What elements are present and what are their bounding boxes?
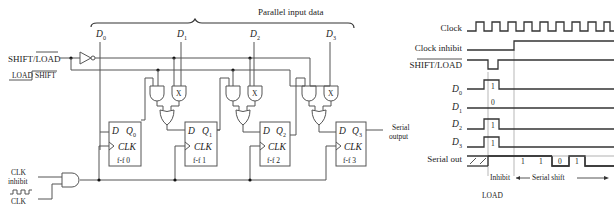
data-input-d3: D 3 bbox=[325, 29, 336, 41]
data-input-d2: D 2 bbox=[249, 29, 260, 41]
svg-text:0: 0 bbox=[103, 35, 106, 41]
timing-label-d1: D 1 bbox=[451, 102, 462, 114]
svg-text:0: 0 bbox=[133, 132, 136, 138]
svg-text:2: 2 bbox=[459, 125, 462, 131]
svg-text:f-f 2: f-f 2 bbox=[267, 156, 280, 165]
svg-text:f-f 1: f-f 1 bbox=[193, 156, 206, 165]
timing-label-d2: D 2 bbox=[451, 119, 462, 131]
shift-load-waveform bbox=[467, 60, 614, 69]
svg-text:CLK: CLK bbox=[11, 168, 27, 177]
gating-stage-1: X bbox=[141, 58, 186, 130]
svg-text:D: D bbox=[338, 126, 346, 136]
svg-text:f-f 3: f-f 3 bbox=[343, 156, 356, 165]
svg-text:SHIFT: SHIFT bbox=[35, 71, 56, 80]
svg-text:D: D bbox=[111, 126, 119, 136]
d3-waveform bbox=[467, 137, 614, 147]
timing-label-d3: D 3 bbox=[451, 137, 462, 149]
svg-text:Serial: Serial bbox=[392, 123, 410, 132]
clock-waveform bbox=[467, 22, 614, 31]
svg-text:1: 1 bbox=[184, 35, 187, 41]
serial-output-label: Serial output bbox=[389, 123, 410, 141]
svg-text:2: 2 bbox=[257, 35, 260, 41]
svg-text:1: 1 bbox=[491, 121, 495, 130]
svg-text:1: 1 bbox=[521, 157, 525, 166]
timing-label-serial-out: Serial out bbox=[427, 154, 462, 164]
svg-text:f-f 0: f-f 0 bbox=[117, 156, 130, 165]
svg-text:CLK: CLK bbox=[344, 142, 363, 152]
parallel-input-brace bbox=[91, 19, 354, 28]
timing-label-shift-load: SHIFT/LOAD bbox=[409, 60, 462, 70]
svg-text:2: 2 bbox=[283, 132, 286, 138]
shift-register-figure: Parallel input data D 0 D 1 D 2 D 3 SHIF… bbox=[0, 0, 615, 208]
svg-text:CLK: CLK bbox=[194, 142, 213, 152]
data-input-d0: D 0 bbox=[95, 29, 106, 41]
parallel-input-title: Parallel input data bbox=[258, 7, 323, 17]
timing-label-clock: Clock bbox=[441, 23, 463, 33]
svg-text:Serial shift: Serial shift bbox=[532, 173, 566, 182]
svg-text:3: 3 bbox=[333, 35, 336, 41]
clk-inhibit-label: CLK inhibit bbox=[8, 168, 29, 186]
svg-text:inhibit: inhibit bbox=[8, 177, 29, 186]
svg-text:output: output bbox=[389, 132, 409, 141]
shift-load-label: SHIFT/LOAD bbox=[8, 54, 61, 64]
inhibit-label: Inhibit bbox=[490, 173, 511, 182]
svg-text:Q: Q bbox=[202, 126, 209, 136]
svg-text:D: D bbox=[451, 137, 459, 147]
svg-text:0: 0 bbox=[558, 157, 562, 166]
svg-text:D: D bbox=[325, 29, 333, 39]
svg-text:1: 1 bbox=[491, 139, 495, 148]
flip-flop-1: D Q 1 CLK f-f 1 bbox=[175, 122, 220, 180]
svg-text:X: X bbox=[252, 89, 258, 98]
clk-label: CLK bbox=[11, 197, 27, 206]
serial-shift-annotation: Serial shift bbox=[516, 173, 609, 182]
svg-text:3: 3 bbox=[459, 143, 462, 149]
clock-inhibit-waveform bbox=[467, 41, 614, 50]
svg-text:D: D bbox=[451, 119, 459, 129]
svg-text:Q: Q bbox=[126, 126, 133, 136]
d0-waveform bbox=[467, 80, 614, 89]
load-label: LOAD bbox=[482, 191, 503, 200]
svg-text:1: 1 bbox=[209, 132, 212, 138]
svg-text:D: D bbox=[451, 102, 459, 112]
timing-label-clock-inhibit: Clock inhibit bbox=[415, 43, 463, 53]
clock-waveform-icon bbox=[10, 190, 32, 194]
timing-label-d0: D 0 bbox=[451, 84, 462, 96]
flip-flop-2: D Q 2 CLK f-f 2 bbox=[250, 122, 290, 180]
flip-flop-0: D Q 0 CLK f-f 0 bbox=[99, 122, 141, 180]
data-input-d1: D 1 bbox=[176, 29, 187, 41]
svg-text:Q: Q bbox=[276, 126, 283, 136]
svg-text:D: D bbox=[95, 29, 103, 39]
svg-text:1: 1 bbox=[539, 157, 543, 166]
svg-text:1: 1 bbox=[575, 157, 579, 166]
svg-text:D: D bbox=[176, 29, 184, 39]
clock-inhibit-and-gate bbox=[38, 173, 79, 199]
svg-text:LOAD: LOAD bbox=[12, 71, 33, 80]
svg-text:1: 1 bbox=[459, 108, 462, 114]
load-shift-mode-indicator: LOAD SHIFT bbox=[9, 71, 57, 80]
svg-text:D: D bbox=[451, 84, 459, 94]
svg-text:0: 0 bbox=[491, 98, 495, 107]
svg-text:D: D bbox=[249, 29, 257, 39]
gating-stage-3: X bbox=[290, 78, 338, 135]
serial-out-waveform: 1 1 0 1 bbox=[467, 156, 614, 166]
timing-diagram: Clock Clock inhibit SHIFT/LOAD D 0 D 1 D… bbox=[409, 22, 614, 200]
svg-text:Q: Q bbox=[352, 126, 359, 136]
svg-text:X: X bbox=[176, 89, 182, 98]
svg-text:0: 0 bbox=[459, 90, 462, 96]
svg-text:D: D bbox=[187, 126, 195, 136]
gating-stage-2: X bbox=[213, 58, 262, 132]
svg-text:3: 3 bbox=[359, 132, 362, 138]
flip-flop-3: D Q 3 CLK f-f 3 bbox=[326, 122, 383, 180]
inverter-gate bbox=[80, 52, 91, 64]
svg-text:1: 1 bbox=[491, 82, 495, 91]
svg-text:D: D bbox=[262, 126, 270, 136]
svg-text:CLK: CLK bbox=[268, 142, 287, 152]
circuit-diagram: Parallel input data D 0 D 1 D 2 D 3 SHIF… bbox=[8, 7, 410, 206]
d2-waveform bbox=[467, 119, 614, 129]
svg-text:CLK: CLK bbox=[118, 142, 137, 152]
svg-text:X: X bbox=[328, 89, 334, 98]
